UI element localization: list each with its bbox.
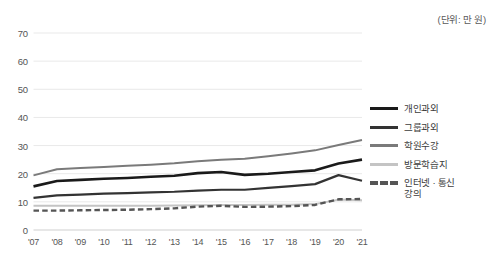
y-axis-tick-label: 50 xyxy=(6,84,28,95)
legend-swatch xyxy=(370,144,398,147)
x-axis-tick-label: '14 xyxy=(192,237,203,247)
x-axis-tick-label: '08 xyxy=(51,237,62,247)
y-axis-tick-label: 30 xyxy=(6,140,28,151)
x-axis-tick-label: '11 xyxy=(122,237,132,247)
x-axis-tick-label: '20 xyxy=(333,237,344,247)
legend-label: 그룹과외 xyxy=(404,122,439,133)
x-axis-tick-label: '19 xyxy=(309,237,320,247)
y-axis-tick-label: 10 xyxy=(6,196,28,207)
legend-label: 방문학습지 xyxy=(404,159,448,170)
x-axis-tick-label: '13 xyxy=(169,237,180,247)
y-axis-tick-label: 20 xyxy=(6,168,28,179)
y-axis-tick-label: 0 xyxy=(6,225,28,236)
legend-label: 인터넷 · 통신 강의 xyxy=(404,177,455,199)
legend-item: 인터넷 · 통신 강의 xyxy=(370,177,496,199)
x-axis-tick-label: '12 xyxy=(145,237,156,247)
x-axis-tick-label: '18 xyxy=(286,237,297,247)
x-axis-tick-label: '09 xyxy=(75,237,86,247)
legend-swatch xyxy=(370,107,398,110)
legend-item: 방문학습지 xyxy=(370,159,496,170)
y-axis-tick-label: 60 xyxy=(6,56,28,67)
series-group xyxy=(34,140,363,211)
x-axis-tick-label: '15 xyxy=(216,237,227,247)
legend-label: 개인과외 xyxy=(404,103,439,114)
legend-item: 학원수강 xyxy=(370,140,496,151)
gridlines xyxy=(34,33,363,230)
x-axis-tick-label: '16 xyxy=(239,237,250,247)
x-axis-tick-label: '07 xyxy=(28,237,39,247)
legend-swatch xyxy=(370,126,398,129)
y-axis-tick-label: 40 xyxy=(6,112,28,123)
legend-label: 학원수강 xyxy=(404,140,439,151)
legend-swatch xyxy=(370,163,398,166)
legend-swatch xyxy=(370,181,398,185)
chart-legend: 개인과외그룹과외학원수강방문학습지인터넷 · 통신 강의 xyxy=(370,103,496,207)
x-axis-tick-label: '21 xyxy=(356,237,367,247)
x-axis-tick-label: '17 xyxy=(263,237,274,247)
y-axis-tick-label: 70 xyxy=(6,28,28,39)
legend-item: 개인과외 xyxy=(370,103,496,114)
x-axis-tick-label: '10 xyxy=(98,237,109,247)
legend-item: 그룹과외 xyxy=(370,122,496,133)
series-line-0 xyxy=(34,160,363,187)
